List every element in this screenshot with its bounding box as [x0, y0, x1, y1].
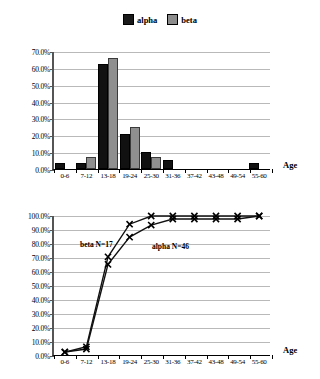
x-axis-tick-label: 43-48 — [205, 358, 227, 366]
x-axis-tick-mark — [272, 169, 273, 173]
x-axis-tick-mark — [119, 355, 120, 359]
y-axis-tick-label: 70.0% — [32, 48, 50, 57]
annotation-beta: beta N=17 — [80, 240, 113, 249]
y-axis-tick-label: 20.0% — [32, 132, 50, 141]
x-axis-tick-mark — [98, 355, 99, 359]
bar-chart: alpha beta 0.0%10.0%20.0%30.0%40.0%50.0%… — [0, 0, 320, 190]
bar-group — [97, 52, 119, 169]
bar-group — [248, 52, 270, 169]
legend-swatch-square-icon — [123, 14, 134, 25]
bar-group — [54, 52, 76, 169]
x-axis-tick-mark — [207, 355, 208, 359]
x-axis-tick-mark — [98, 169, 99, 173]
x-axis-tick-mark — [250, 355, 251, 359]
data-point-marker-x — [127, 234, 133, 240]
x-axis-tick-label: 19-24 — [119, 358, 141, 366]
bar-alpha — [55, 163, 65, 169]
bar-beta — [130, 127, 140, 169]
x-axis-tick-mark — [250, 169, 251, 173]
bar-alpha — [141, 152, 151, 169]
y-axis-tick-label: 20.0% — [32, 324, 50, 333]
x-axis-tick-mark — [228, 355, 229, 359]
bar-group — [140, 52, 162, 169]
y-axis-tick-label: 50.0% — [32, 81, 50, 90]
x-axis-tick-label: 49-54 — [227, 172, 249, 180]
x-axis-tick-label: 13-18 — [97, 172, 119, 180]
x-axis-tick-label: 7-12 — [76, 172, 98, 180]
x-axis-tick-label: 13-18 — [97, 358, 119, 366]
x-axis-tick-label: 37-42 — [184, 358, 206, 366]
y-axis-tick-label: 30.0% — [32, 310, 50, 319]
bar-alpha — [76, 163, 86, 169]
x-axis-tick-mark — [228, 169, 229, 173]
x-axis-tick-label: 7-12 — [76, 358, 98, 366]
line-series-svg — [54, 216, 270, 355]
x-axis-tick-label: 43-48 — [205, 172, 227, 180]
data-point-marker-x — [127, 221, 133, 227]
line-chart-axis-title: Age — [283, 345, 297, 355]
x-axis-tick-label: 25-30 — [140, 172, 162, 180]
bar-group — [205, 52, 227, 169]
y-axis-tick-label: 50.0% — [32, 282, 50, 291]
line-x-axis-labels: 0-67-1213-1819-2425-3031-3637-4243-4849-… — [54, 358, 270, 366]
bar-group — [162, 52, 184, 169]
x-axis-tick-mark — [272, 355, 273, 359]
y-axis-tick-label: 90.0% — [32, 226, 50, 235]
bar-beta — [108, 58, 118, 169]
line-chart: 0.0%10.0%20.0%30.0%40.0%50.0%60.0%70.0%8… — [0, 190, 320, 379]
bar-alpha — [98, 64, 108, 169]
line-series-beta — [65, 216, 259, 352]
x-axis-tick-label: 49-54 — [227, 358, 249, 366]
x-axis-tick-mark — [76, 169, 77, 173]
x-axis-tick-mark — [119, 169, 120, 173]
legend-item-alpha: alpha — [123, 14, 157, 25]
bar-chart-legend: alpha beta — [0, 14, 320, 25]
legend-label-beta: beta — [181, 15, 197, 25]
y-axis-tick-label: 70.0% — [32, 254, 50, 263]
x-axis-tick-mark — [163, 169, 164, 173]
annotation-alpha: alpha N=46 — [152, 242, 189, 251]
x-axis-tick-mark — [163, 355, 164, 359]
bar-series-container — [54, 52, 270, 169]
bar-x-axis-labels: 0-67-1213-1819-2425-3031-3637-4243-4849-… — [54, 172, 270, 180]
bar-beta — [86, 157, 96, 169]
x-axis-tick-label: 0-6 — [54, 172, 76, 180]
x-axis-tick-label: 25-30 — [140, 358, 162, 366]
x-axis-tick-mark — [54, 169, 55, 173]
x-axis-tick-mark — [185, 355, 186, 359]
line-series-alpha — [65, 216, 259, 352]
x-axis-tick-mark — [185, 169, 186, 173]
y-axis-tick-label: 80.0% — [32, 240, 50, 249]
bar-group — [119, 52, 141, 169]
legend-item-beta: beta — [167, 14, 197, 25]
legend-label-alpha: alpha — [137, 15, 157, 25]
x-axis-tick-mark — [76, 355, 77, 359]
y-axis-tick-label: 10.0% — [32, 338, 50, 347]
legend-swatch-square-icon — [167, 14, 178, 25]
y-axis-tick-label: 0.0% — [35, 352, 50, 361]
x-axis-tick-label: 37-42 — [184, 172, 206, 180]
y-axis-tick-label: 60.0% — [32, 64, 50, 73]
x-axis-tick-label: 19-24 — [119, 172, 141, 180]
bar-group — [184, 52, 206, 169]
bar-chart-axis-title: Age — [283, 160, 297, 170]
line-plot-area: 0.0%10.0%20.0%30.0%40.0%50.0%60.0%70.0%8… — [52, 216, 270, 356]
y-axis-tick-label: 30.0% — [32, 115, 50, 124]
x-axis-tick-mark — [141, 169, 142, 173]
bar-plot-area: 0.0%10.0%20.0%30.0%40.0%50.0%60.0%70.0% … — [52, 52, 270, 170]
x-axis-tick-label: 55-60 — [248, 358, 270, 366]
x-axis-tick-mark — [54, 355, 55, 359]
y-axis-tick-label: 60.0% — [32, 268, 50, 277]
y-axis-tick-label: 100.0% — [28, 212, 50, 221]
x-axis-tick-label: 55-60 — [248, 172, 270, 180]
bar-alpha — [163, 160, 173, 169]
x-axis-tick-label: 31-36 — [162, 358, 184, 366]
bar-alpha — [120, 134, 130, 169]
y-axis-tick-label: 0.0% — [35, 166, 50, 175]
bar-group — [76, 52, 98, 169]
y-axis-tick-label: 40.0% — [32, 98, 50, 107]
x-axis-tick-mark — [207, 169, 208, 173]
x-axis-tick-mark — [141, 355, 142, 359]
x-axis-tick-label: 31-36 — [162, 172, 184, 180]
bar-beta — [151, 157, 161, 169]
